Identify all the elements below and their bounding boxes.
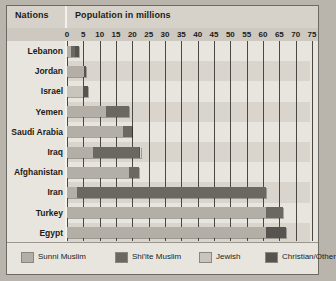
nation-label: Iran bbox=[7, 187, 63, 197]
header-population-cell: Population in millions bbox=[67, 6, 318, 28]
bar-israel[interactable] bbox=[67, 86, 88, 97]
legend-label: Jewish bbox=[216, 252, 240, 261]
bar-segment bbox=[83, 86, 88, 97]
gridline bbox=[312, 41, 313, 241]
legend-swatch-icon bbox=[265, 252, 278, 263]
axis-tick-label: 75 bbox=[304, 30, 320, 39]
bar-segment bbox=[67, 147, 93, 158]
chart-legend: Sunni MuslimShi'ite MuslimJewishChristia… bbox=[7, 242, 318, 274]
bar-lebanon[interactable] bbox=[67, 46, 79, 57]
legend-label: Christian/Other bbox=[282, 252, 336, 261]
plot-area bbox=[67, 41, 310, 241]
axis-tick-label: 35 bbox=[173, 30, 189, 39]
chart-header: Nations Population in millions bbox=[7, 6, 318, 28]
nation-label-column: LebanonJordanIsraelYemenSaudi ArabiaIraq… bbox=[7, 41, 67, 241]
bar-segment bbox=[75, 46, 79, 57]
chart-frame: Nations Population in millions 051015202… bbox=[6, 5, 319, 275]
nation-label: Yemen bbox=[7, 107, 63, 117]
bar-segment bbox=[266, 227, 286, 238]
bar-segment bbox=[123, 126, 133, 137]
bar-iran[interactable] bbox=[67, 187, 266, 198]
nation-label: Lebanon bbox=[7, 46, 63, 56]
axis-tick-label: 25 bbox=[141, 30, 157, 39]
nation-label: Afghanistan bbox=[7, 167, 63, 177]
bar-segment bbox=[106, 106, 129, 117]
row-band bbox=[67, 61, 310, 81]
bar-segment bbox=[67, 187, 77, 198]
bar-afghanistan[interactable] bbox=[67, 167, 139, 178]
axis-tick-label: 65 bbox=[271, 30, 287, 39]
nation-label: Egypt bbox=[7, 228, 63, 238]
bar-segment bbox=[67, 86, 83, 97]
axis-tick-label: 30 bbox=[157, 30, 173, 39]
gridline bbox=[296, 41, 297, 241]
axis-tick-label: 5 bbox=[75, 30, 91, 39]
axis-tick-label: 10 bbox=[92, 30, 108, 39]
bar-iraq[interactable] bbox=[67, 147, 141, 158]
axis-tick-label: 0 bbox=[59, 30, 75, 39]
nation-label: Saudi Arabia bbox=[7, 127, 63, 137]
nation-label: Iraq bbox=[7, 147, 63, 157]
axis-tick-label: 15 bbox=[108, 30, 124, 39]
legend-swatch-icon bbox=[21, 252, 34, 263]
bar-segment bbox=[266, 207, 282, 218]
nation-label: Israel bbox=[7, 86, 63, 96]
axis-tick-label: 55 bbox=[239, 30, 255, 39]
bar-segment bbox=[67, 207, 266, 218]
bar-egypt[interactable] bbox=[67, 227, 286, 238]
legend-label: Sunni Muslim bbox=[38, 252, 86, 261]
bar-segment bbox=[67, 66, 84, 77]
axis-tick-label: 45 bbox=[206, 30, 222, 39]
bar-segment bbox=[84, 66, 86, 77]
bar-yemen[interactable] bbox=[67, 106, 129, 117]
bar-segment bbox=[67, 126, 123, 137]
header-population-label: Population in millions bbox=[75, 10, 171, 20]
header-nations-label: Nations bbox=[15, 10, 49, 20]
legend-label: Shi'ite Muslim bbox=[132, 252, 181, 261]
axis-tick-label: 70 bbox=[288, 30, 304, 39]
bar-turkey[interactable] bbox=[67, 207, 283, 218]
bar-segment bbox=[67, 106, 106, 117]
bar-segment bbox=[129, 167, 139, 178]
legend-swatch-icon bbox=[115, 252, 128, 263]
header-nations-cell: Nations bbox=[7, 6, 67, 28]
axis-tick-label: 20 bbox=[124, 30, 140, 39]
nation-label: Turkey bbox=[7, 208, 63, 218]
bar-segment bbox=[139, 147, 141, 158]
nation-label: Jordan bbox=[7, 66, 63, 76]
bar-jordan[interactable] bbox=[67, 66, 86, 77]
row-band bbox=[67, 81, 310, 101]
axis-tick-label: 40 bbox=[190, 30, 206, 39]
bar-segment bbox=[67, 167, 129, 178]
row-band bbox=[67, 41, 310, 61]
axis-tick-label: 50 bbox=[222, 30, 238, 39]
bar-segment bbox=[67, 227, 266, 238]
bar-segment bbox=[93, 147, 139, 158]
axis-tick-label: 60 bbox=[255, 30, 271, 39]
bar-saudi-arabia[interactable] bbox=[67, 126, 132, 137]
bar-segment bbox=[77, 187, 266, 198]
legend-swatch-icon bbox=[199, 252, 212, 263]
